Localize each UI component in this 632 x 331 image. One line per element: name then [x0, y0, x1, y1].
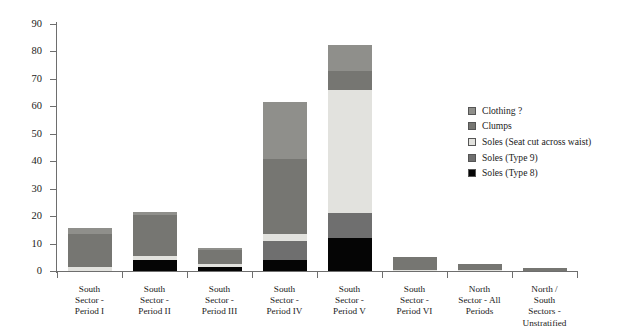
x-axis-tick: [512, 271, 513, 278]
legend-swatch-icon: [468, 122, 476, 130]
y-axis-tick: [50, 24, 57, 25]
x-axis-category-label-line: Sector -: [248, 295, 321, 306]
legend-item[interactable]: Clumps: [468, 119, 591, 135]
bar-segment[interactable]: [198, 250, 242, 264]
chart-legend: Clothing ?ClumpsSoles (Seat cut across w…: [468, 103, 591, 181]
bar-segment[interactable]: [328, 238, 372, 271]
legend-item-label: Soles (Seat cut across waist): [482, 137, 591, 147]
y-axis-tick-label: 30: [8, 184, 42, 194]
y-axis-tick-label: 20: [8, 211, 42, 221]
y-axis-tick-label: 70: [8, 74, 42, 84]
x-axis-category-label-line: Sector -: [378, 295, 451, 306]
bar-segment[interactable]: [68, 234, 112, 267]
y-axis-tick: [50, 79, 57, 80]
y-axis-tick-label: 50: [8, 129, 42, 139]
legend-item[interactable]: Soles (Seat cut across waist): [468, 134, 591, 150]
y-axis-tick: [50, 189, 57, 190]
y-axis-tick-label: 60: [8, 101, 42, 111]
x-axis-tick: [57, 271, 58, 278]
x-axis-category-label: SouthSector -Period IV: [248, 284, 321, 318]
x-axis-category-label: North /SouthSectors -Unstratified: [508, 284, 581, 329]
x-axis-tick: [252, 271, 253, 278]
x-axis-category-label-line: Periods: [443, 306, 516, 317]
stacked-bar-chart: 0102030405060708090 SouthSector -Period …: [0, 0, 632, 331]
x-axis-category-label-line: South: [118, 284, 191, 295]
y-axis-tick: [50, 271, 57, 272]
x-axis-category-label-line: Period IV: [248, 306, 321, 317]
bar-segment[interactable]: [68, 267, 112, 271]
x-axis-tick: [187, 271, 188, 278]
x-axis-category-label: SouthSector -Period V: [313, 284, 386, 318]
x-axis-category-label-line: Period V: [313, 306, 386, 317]
bar-segment[interactable]: [523, 268, 567, 271]
bar-segment[interactable]: [458, 270, 502, 271]
bar-stack[interactable]: [393, 24, 437, 271]
x-axis-category-label-line: Sector -: [183, 295, 256, 306]
legend-item[interactable]: Clothing ?: [468, 103, 591, 119]
bar-stack[interactable]: [68, 24, 112, 271]
y-axis-tick: [50, 161, 57, 162]
bar-segment[interactable]: [393, 270, 437, 271]
legend-item-label: Clumps: [482, 121, 512, 131]
x-axis-category-label-line: Sector -: [53, 295, 126, 306]
x-axis-category-label-line: South: [508, 295, 581, 306]
bar-segment[interactable]: [263, 260, 307, 271]
legend-swatch-icon: [468, 107, 476, 115]
x-axis-category-label-line: Sector -: [313, 295, 386, 306]
bar-segment[interactable]: [133, 215, 177, 256]
x-axis-category-label-line: South: [183, 284, 256, 295]
x-axis-category-label-line: Period I: [53, 306, 126, 317]
bar-stack[interactable]: [198, 24, 242, 271]
y-axis-tick-label: 80: [8, 46, 42, 56]
legend-item-label: Soles (Type 8): [482, 168, 538, 178]
x-axis-tick: [577, 271, 578, 278]
bar-segment[interactable]: [133, 260, 177, 271]
x-axis-tick: [122, 271, 123, 278]
x-axis-category-label-line: North /: [508, 284, 581, 295]
x-axis-category-label-line: Sector - All: [443, 295, 516, 306]
bar-segment[interactable]: [263, 159, 307, 234]
x-axis-category-label-line: Sectors -: [508, 306, 581, 317]
bar-segment[interactable]: [263, 102, 307, 158]
x-axis-category-label-line: North: [443, 284, 516, 295]
x-axis-category-label-line: Period VI: [378, 306, 451, 317]
x-axis-category-label: SouthSector -Period VI: [378, 284, 451, 318]
legend-item-label: Soles (Type 9): [482, 153, 538, 163]
x-axis-category-label-line: Unstratified: [508, 318, 581, 329]
legend-item-label: Clothing ?: [482, 106, 522, 116]
x-axis-category-label: SouthSector -Period III: [183, 284, 256, 318]
bar-segment[interactable]: [328, 213, 372, 238]
bar-segment[interactable]: [263, 234, 307, 241]
legend-item[interactable]: Soles (Type 8): [468, 165, 591, 181]
x-axis-category-label-line: South: [313, 284, 386, 295]
legend-swatch-icon: [468, 138, 476, 146]
legend-item[interactable]: Soles (Type 9): [468, 150, 591, 166]
x-axis-category-label-line: Period III: [183, 306, 256, 317]
x-axis-category-label: NorthSector - AllPeriods: [443, 284, 516, 318]
bar-segment[interactable]: [328, 71, 372, 90]
y-axis-tick-label: 90: [8, 19, 42, 29]
bar-segment[interactable]: [328, 45, 372, 71]
y-axis-tick: [50, 216, 57, 217]
x-axis-category-label-line: Period II: [118, 306, 191, 317]
x-axis-tick: [382, 271, 383, 278]
x-axis-category-label-line: South: [53, 284, 126, 295]
y-axis-tick: [50, 51, 57, 52]
y-axis-tick-label: 0: [8, 266, 42, 276]
y-axis-tick-label: 10: [8, 239, 42, 249]
y-axis-tick: [50, 134, 57, 135]
y-axis-tick-label: 40: [8, 156, 42, 166]
bar-segment[interactable]: [328, 90, 372, 214]
legend-swatch-icon: [468, 169, 476, 177]
bar-segment[interactable]: [263, 241, 307, 260]
x-axis-category-label-line: South: [248, 284, 321, 295]
x-axis-tick: [447, 271, 448, 278]
bar-segment[interactable]: [393, 257, 437, 269]
bar-segment[interactable]: [198, 267, 242, 271]
bar-stack[interactable]: [328, 24, 372, 271]
y-axis-tick: [50, 106, 57, 107]
x-axis-category-label: SouthSector -Period I: [53, 284, 126, 318]
x-axis-tick: [317, 271, 318, 278]
bar-stack[interactable]: [263, 24, 307, 271]
bar-stack[interactable]: [133, 24, 177, 271]
